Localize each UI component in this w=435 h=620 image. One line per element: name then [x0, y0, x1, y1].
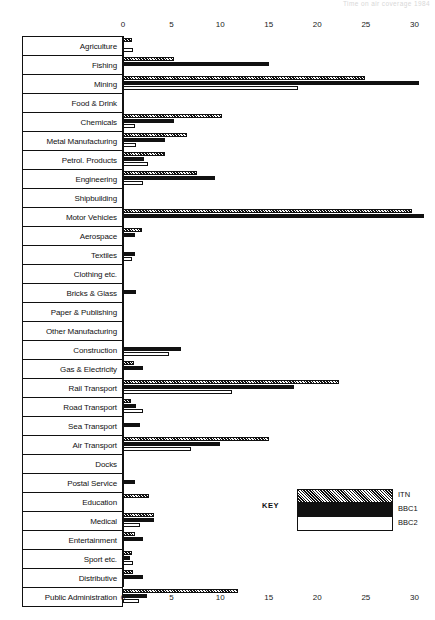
bar-bbc2 — [123, 124, 135, 128]
chart-row — [123, 435, 429, 454]
x-tick-label: 30 — [410, 20, 419, 29]
bar-bbc1 — [123, 62, 269, 66]
chart-row — [123, 568, 429, 587]
chart-row — [123, 454, 429, 473]
category-label: Fishing — [23, 56, 122, 75]
legend-swatch-bbc1 — [298, 503, 392, 517]
category-label: Postal Service — [23, 474, 122, 493]
bar-bbc1 — [123, 480, 135, 484]
legend-label-bbc1: BBC1 — [398, 504, 418, 513]
bar-bbc1 — [123, 138, 165, 142]
bar-bbc1 — [123, 347, 181, 351]
x-tick-label: 20 — [313, 20, 322, 29]
bar-bbc1 — [123, 233, 135, 237]
bar-bbc1 — [123, 556, 130, 560]
bar-bbc1 — [123, 157, 144, 161]
bar-itn — [123, 513, 154, 517]
chart-root: Time on air coverage 1984 051015202530 A… — [0, 0, 435, 620]
top-caption: Time on air coverage 1984 — [255, 0, 430, 11]
bar-itn — [123, 171, 197, 175]
bar-bbc2 — [123, 447, 191, 451]
bar-bbc2 — [123, 390, 232, 394]
legend-swatch-itn — [298, 490, 392, 503]
category-label: Education — [23, 493, 122, 512]
bar-itn — [123, 209, 412, 213]
category-label: Distributive — [23, 569, 122, 588]
category-label: Shipbuilding — [23, 189, 122, 208]
legend-label-itn: ITN — [398, 490, 410, 499]
x-axis-top: 051015202530 — [123, 20, 429, 36]
chart-row — [123, 416, 429, 435]
x-tick-label: 5 — [169, 20, 173, 29]
bar-bbc2 — [123, 181, 143, 185]
category-label: Food & Drink — [23, 94, 122, 113]
chart-row — [123, 549, 429, 568]
bar-bbc2 — [123, 561, 133, 565]
category-label: Gas & Electricity — [23, 360, 122, 379]
bar-bbc1 — [123, 518, 154, 522]
bar-itn — [123, 361, 134, 365]
category-label: Road Transport — [23, 398, 122, 417]
category-label: Construction — [23, 341, 122, 360]
x-tick-label: 0 — [121, 593, 125, 602]
x-tick-label: 25 — [361, 20, 370, 29]
bar-bbc1 — [123, 385, 294, 389]
legend-swatches — [297, 489, 393, 531]
bar-bbc1 — [123, 404, 136, 408]
legend-swatch-bbc2 — [298, 517, 392, 530]
bar-itn — [123, 228, 142, 232]
bar-bbc1 — [123, 290, 136, 294]
x-tick-label: 20 — [313, 593, 322, 602]
category-label: Other Manufacturing — [23, 322, 122, 341]
chart-row — [123, 321, 429, 340]
bar-bbc1 — [123, 252, 135, 256]
bar-bbc2 — [123, 523, 140, 527]
x-tick-label: 0 — [121, 20, 125, 29]
bar-itn — [123, 133, 187, 137]
bar-bbc2 — [123, 86, 298, 90]
category-label: Air Transport — [23, 436, 122, 455]
bar-itn — [123, 399, 131, 403]
bar-itn — [123, 38, 132, 42]
bar-itn — [123, 551, 132, 555]
category-label: Textiles — [23, 246, 122, 265]
bar-bbc1 — [123, 537, 143, 541]
bar-itn — [123, 152, 165, 156]
category-label-column: AgricultureFishingMiningFood & DrinkChem… — [22, 36, 123, 607]
chart-row — [123, 131, 429, 150]
category-label: Sea Transport — [23, 417, 122, 436]
chart-row — [123, 340, 429, 359]
category-label: Agriculture — [23, 37, 122, 56]
chart-row — [123, 245, 429, 264]
x-tick-label: 25 — [361, 593, 370, 602]
category-label: Rail Transport — [23, 379, 122, 398]
chart-row — [123, 302, 429, 321]
chart-row — [123, 283, 429, 302]
chart-row — [123, 397, 429, 416]
legend: KEY ITN BBC1 BBC2 — [262, 489, 432, 533]
bar-itn — [123, 114, 222, 118]
x-tick-label: 10 — [216, 593, 225, 602]
category-label: Metal Manufacturing — [23, 132, 122, 151]
category-label: Sport etc. — [23, 550, 122, 569]
legend-key-label: KEY — [262, 501, 279, 510]
bar-bbc1 — [123, 176, 215, 180]
bar-itn — [123, 437, 269, 441]
chart-row — [123, 378, 429, 397]
category-label: Chemicals — [23, 113, 122, 132]
bar-bbc1 — [123, 119, 174, 123]
category-label: Mining — [23, 75, 122, 94]
chart-row — [123, 188, 429, 207]
category-label: Bricks & Glass — [23, 284, 122, 303]
legend-label-bbc2: BBC2 — [398, 518, 418, 527]
bar-bbc1 — [123, 214, 424, 218]
category-label: Petrol. Products — [23, 151, 122, 170]
category-label: Engineering — [23, 170, 122, 189]
bar-bbc2 — [123, 162, 148, 166]
bar-itn — [123, 380, 339, 384]
category-label: Public Administration — [23, 588, 122, 607]
bar-bbc2 — [123, 352, 169, 356]
bar-itn — [123, 570, 133, 574]
bar-itn — [123, 532, 135, 536]
category-label: Clothing etc. — [23, 265, 122, 284]
